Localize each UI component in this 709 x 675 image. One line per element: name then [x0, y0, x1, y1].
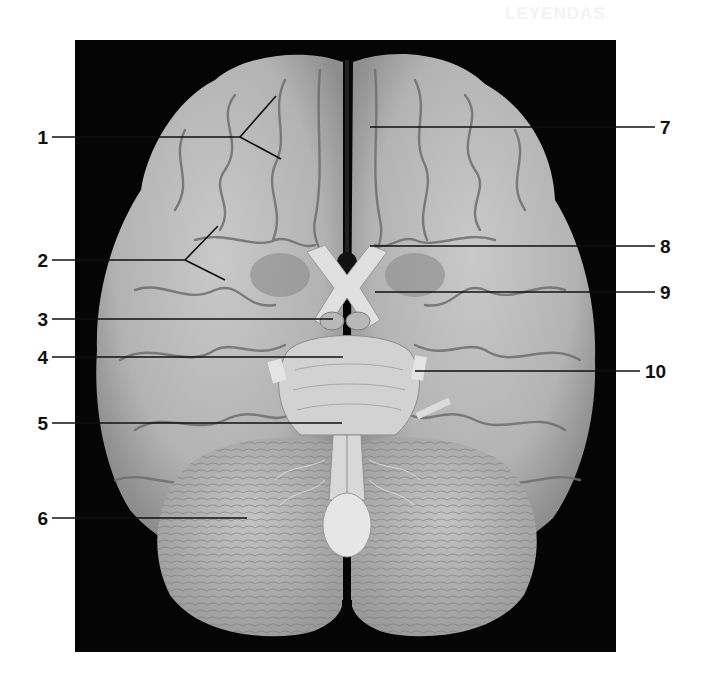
mammillary-body-right [346, 312, 370, 330]
label-number-7: 7 [660, 118, 671, 137]
label-number-2: 2 [34, 251, 48, 270]
label-number-3: 3 [34, 310, 48, 329]
label-number-6: 6 [34, 509, 48, 528]
ghost-heading-text: LEYENDAS [505, 4, 606, 24]
label-number-1: 1 [34, 128, 48, 147]
brain-photograph [75, 40, 616, 652]
label-number-8: 8 [660, 237, 671, 256]
label-number-10: 10 [645, 362, 666, 381]
pons [279, 336, 420, 436]
label-number-4: 4 [34, 348, 48, 367]
label-number-9: 9 [660, 283, 671, 302]
label-number-5: 5 [34, 414, 48, 433]
spinal-cord-section [323, 493, 371, 557]
mammillary-body-left [320, 312, 344, 330]
